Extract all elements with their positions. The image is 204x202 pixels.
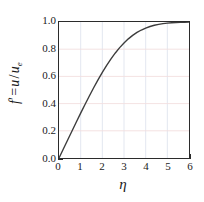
- y-tick-label: 0.8: [14, 43, 56, 54]
- y-tick-label: 1.0: [14, 15, 56, 26]
- y-axis-label-denominator-subscript: e: [14, 62, 24, 66]
- y-axis-label-equals: =: [7, 87, 22, 97]
- y-tick-label: 0.6: [14, 70, 56, 81]
- x-tick-label: 1: [70, 161, 90, 172]
- data-curve: [59, 22, 189, 158]
- plot-area: [58, 21, 190, 159]
- x-axis-label: η: [0, 176, 204, 193]
- x-tick-label: 4: [136, 161, 156, 172]
- x-tick-major: [190, 154, 191, 159]
- y-tick-label: 0.4: [14, 98, 56, 109]
- x-tick-label: 2: [92, 161, 112, 172]
- x-tick-label: 5: [158, 161, 178, 172]
- x-tick-label: 3: [114, 161, 134, 172]
- x-tick-label: 0: [48, 161, 68, 172]
- y-tick-label: 0.2: [14, 125, 56, 136]
- x-tick-label: 6: [180, 161, 200, 172]
- chart-figure: f′=u/ue 0.00.20.40.60.81.0 0123456 η: [0, 0, 204, 202]
